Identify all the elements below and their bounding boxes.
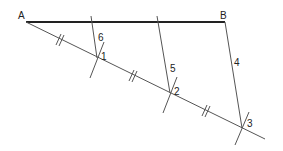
label-division-1: 1 xyxy=(101,51,107,62)
label-division-2: 2 xyxy=(174,86,180,97)
label-a: A xyxy=(18,10,25,21)
construction-line-4 xyxy=(225,22,242,128)
label-line-5: 5 xyxy=(170,63,176,74)
label-b: B xyxy=(220,10,227,21)
label-line-6: 6 xyxy=(98,32,104,43)
label-line-4: 4 xyxy=(234,57,240,68)
geometry-diagram: A B 1 2 3 6 5 4 xyxy=(0,0,283,151)
equal-tick-marks xyxy=(56,34,210,117)
diagram-canvas: A B 1 2 3 6 5 4 xyxy=(0,0,283,151)
label-division-3: 3 xyxy=(247,118,253,129)
construction-line-5 xyxy=(157,16,170,93)
